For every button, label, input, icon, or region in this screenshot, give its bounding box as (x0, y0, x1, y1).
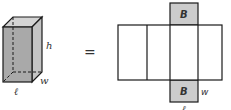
net-width-label: w (201, 87, 209, 97)
width-label: w (40, 75, 49, 86)
top-base-label: B (180, 9, 188, 20)
equals-sign: = (84, 44, 96, 60)
height-label: h (46, 40, 52, 51)
bottom-base-label: B (180, 86, 188, 97)
prism-front-face (3, 27, 32, 82)
rectangular-prism (3, 17, 42, 82)
length-label: ℓ (14, 86, 18, 97)
prism-net-diagram: h w ℓ = B B w ℓ (0, 0, 231, 110)
net-length-label: ℓ (182, 104, 186, 110)
